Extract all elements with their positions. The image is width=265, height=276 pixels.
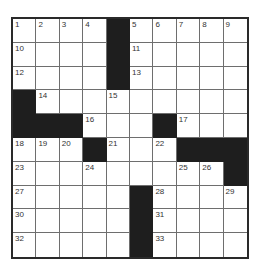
clue-number: 4 — [85, 20, 89, 29]
clue-number: 11 — [132, 44, 140, 53]
grid-cell[interactable] — [83, 43, 106, 67]
black-square — [177, 138, 200, 162]
black-square — [153, 114, 176, 138]
grid-cell[interactable]: 28 — [153, 186, 176, 210]
grid-cell[interactable] — [60, 209, 83, 233]
black-square — [60, 114, 83, 138]
grid-cell[interactable]: 32 — [13, 233, 36, 257]
grid-cell[interactable] — [107, 233, 130, 257]
grid-cell[interactable]: 16 — [83, 114, 106, 138]
grid-cell[interactable] — [107, 114, 130, 138]
grid-cell[interactable]: 19 — [36, 138, 59, 162]
grid-cell[interactable]: 11 — [130, 43, 153, 67]
grid-cell[interactable] — [83, 186, 106, 210]
grid-cell[interactable] — [200, 67, 223, 91]
grid-cell[interactable]: 12 — [13, 67, 36, 91]
grid-cell[interactable] — [36, 209, 59, 233]
clue-number: 16 — [85, 115, 94, 124]
grid-cell[interactable] — [224, 233, 247, 257]
grid-cell[interactable] — [200, 209, 223, 233]
grid-cell[interactable]: 22 — [153, 138, 176, 162]
grid-cell[interactable] — [130, 138, 153, 162]
grid-cell[interactable]: 30 — [13, 209, 36, 233]
grid-cell[interactable] — [153, 162, 176, 186]
clue-number: 9 — [226, 20, 230, 29]
grid-cell[interactable] — [60, 186, 83, 210]
black-square — [224, 162, 247, 186]
grid-cell[interactable] — [177, 233, 200, 257]
grid-cell[interactable]: 2 — [36, 19, 59, 43]
grid-cell[interactable] — [36, 233, 59, 257]
grid-cell[interactable]: 24 — [83, 162, 106, 186]
grid-cell[interactable]: 27 — [13, 186, 36, 210]
grid-cell[interactable]: 33 — [153, 233, 176, 257]
grid-cell[interactable] — [130, 162, 153, 186]
grid-cell[interactable]: 25 — [177, 162, 200, 186]
clue-number: 33 — [155, 234, 164, 243]
grid-cell[interactable]: 14 — [36, 90, 59, 114]
grid-cell[interactable] — [60, 43, 83, 67]
grid-cell[interactable] — [200, 233, 223, 257]
grid-cell[interactable] — [224, 209, 247, 233]
grid-cell[interactable] — [36, 186, 59, 210]
grid-cell[interactable]: 8 — [200, 19, 223, 43]
grid-cell[interactable] — [60, 90, 83, 114]
grid-cell[interactable] — [83, 90, 106, 114]
grid-cell[interactable] — [60, 67, 83, 91]
grid-cell[interactable] — [107, 162, 130, 186]
grid-cell[interactable] — [200, 186, 223, 210]
grid-cell[interactable]: 4 — [83, 19, 106, 43]
grid-cell[interactable] — [83, 67, 106, 91]
grid-cell[interactable] — [153, 67, 176, 91]
grid-cell[interactable] — [60, 233, 83, 257]
grid-cell[interactable] — [200, 114, 223, 138]
grid-cell[interactable]: 23 — [13, 162, 36, 186]
grid-cell[interactable]: 31 — [153, 209, 176, 233]
grid-cell[interactable] — [224, 114, 247, 138]
grid-cell[interactable]: 6 — [153, 19, 176, 43]
grid-cell[interactable] — [153, 43, 176, 67]
grid-cell[interactable]: 9 — [224, 19, 247, 43]
grid-cell[interactable]: 21 — [107, 138, 130, 162]
grid-cell[interactable] — [107, 209, 130, 233]
grid-cell[interactable] — [177, 43, 200, 67]
black-square — [13, 114, 36, 138]
grid-cell[interactable] — [36, 162, 59, 186]
grid-cell[interactable] — [36, 43, 59, 67]
grid-cell[interactable]: 5 — [130, 19, 153, 43]
grid-cell[interactable]: 13 — [130, 67, 153, 91]
black-square — [130, 233, 153, 257]
grid-cell[interactable]: 17 — [177, 114, 200, 138]
grid-cell[interactable] — [130, 90, 153, 114]
grid-cell[interactable] — [60, 162, 83, 186]
grid-cell[interactable] — [200, 43, 223, 67]
grid-cell[interactable] — [200, 90, 223, 114]
black-square — [83, 138, 106, 162]
clue-number: 14 — [38, 91, 47, 100]
grid-cell[interactable] — [83, 209, 106, 233]
grid-cell[interactable] — [224, 67, 247, 91]
grid-cell[interactable] — [177, 67, 200, 91]
grid-cell[interactable]: 18 — [13, 138, 36, 162]
grid-cell[interactable]: 20 — [60, 138, 83, 162]
grid-cell[interactable] — [177, 186, 200, 210]
grid-cell[interactable]: 29 — [224, 186, 247, 210]
grid-cell[interactable] — [83, 233, 106, 257]
grid-cell[interactable] — [224, 43, 247, 67]
grid-cell[interactable]: 26 — [200, 162, 223, 186]
grid-cell[interactable] — [36, 67, 59, 91]
grid-cell[interactable] — [107, 186, 130, 210]
grid-cell[interactable] — [224, 90, 247, 114]
grid-cell[interactable] — [177, 209, 200, 233]
grid-cell[interactable] — [177, 90, 200, 114]
grid-cell[interactable] — [130, 114, 153, 138]
clue-number: 12 — [15, 68, 24, 77]
grid-cell[interactable] — [153, 90, 176, 114]
grid-cell[interactable]: 7 — [177, 19, 200, 43]
grid-cell[interactable]: 10 — [13, 43, 36, 67]
grid-cell[interactable]: 3 — [60, 19, 83, 43]
clue-number: 30 — [15, 210, 24, 219]
grid-cell[interactable]: 1 — [13, 19, 36, 43]
clue-number: 3 — [62, 20, 66, 29]
grid-cell[interactable]: 15 — [107, 90, 130, 114]
